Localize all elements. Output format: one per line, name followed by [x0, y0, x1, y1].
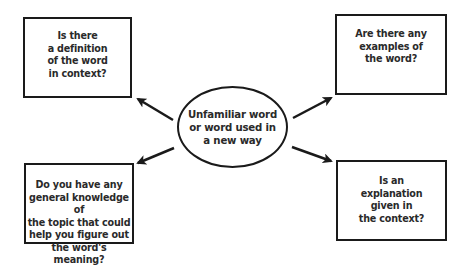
center-label: Unfamiliar word or word used in a new wa… — [188, 108, 277, 147]
node-label: Is there a definition of the word in con… — [47, 30, 107, 80]
arrow-to-bottom-right — [292, 147, 331, 161]
node-label: Are there any examples of the word? — [355, 28, 426, 66]
arrow-to-bottom-left — [138, 148, 174, 163]
arrow-to-top-left — [138, 99, 173, 120]
node-label: Do you have any general knowledge of the… — [26, 179, 132, 267]
center-node-unfamiliar-word: Unfamiliar word or word used in a new wa… — [177, 86, 288, 168]
node-label: Is an explanation given in the context? — [359, 175, 424, 225]
node-examples-of-word: Are there any examples of the word? — [335, 14, 447, 95]
arrow-to-top-right — [293, 98, 331, 118]
node-general-knowledge: Do you have any general knowledge of the… — [24, 163, 134, 244]
node-explanation-in-context: Is an explanation given in the context? — [336, 160, 447, 241]
node-definition-in-context: Is there a definition of the word in con… — [23, 17, 132, 98]
